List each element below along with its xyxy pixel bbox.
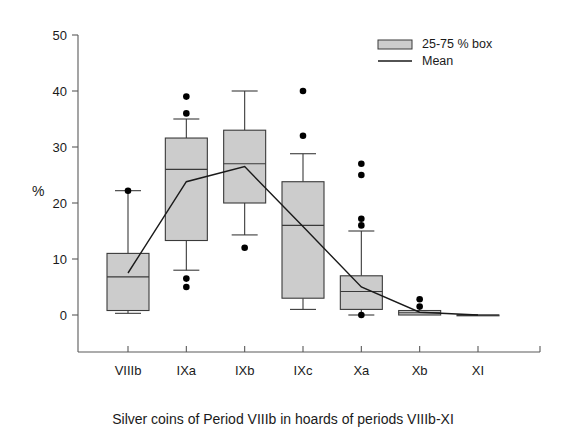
outlier-point [300, 88, 307, 95]
chart-canvas: 01020304050 VIIIbIXaIXbIXcXaXbXI 25-75 %… [0, 0, 567, 440]
box-plot-series [107, 88, 499, 319]
legend-label-box: 25-75 % box [422, 37, 493, 51]
x-tick-label: IXa [177, 363, 197, 378]
box-iqr [107, 253, 149, 310]
outlier-point [183, 93, 190, 100]
outlier-point [183, 110, 190, 117]
outlier-point [183, 275, 190, 282]
legend-label-mean: Mean [422, 54, 453, 68]
x-tick-label: Xb [412, 363, 428, 378]
y-axis-title: % [32, 183, 44, 199]
legend-swatch-box [378, 40, 412, 49]
y-tick-label: 50 [53, 28, 67, 43]
box-plot-xi [457, 315, 499, 316]
x-tick-label: XI [472, 363, 484, 378]
x-tick-label: Xa [353, 363, 370, 378]
outlier-point [125, 187, 132, 194]
outlier-point [358, 312, 365, 319]
outlier-point [300, 133, 307, 140]
chart-caption: Silver coins of Period VIIIb in hoards o… [112, 411, 454, 427]
y-tick-label: 20 [53, 196, 67, 211]
outlier-point [358, 161, 365, 168]
outlier-point [241, 245, 248, 252]
x-tick-label: VIIIb [115, 363, 142, 378]
outlier-point [358, 172, 365, 179]
chart-legend: 25-75 % boxMean [378, 37, 493, 68]
box-iqr [165, 138, 207, 240]
y-tick-label: 10 [53, 252, 67, 267]
boxplot-figure: 01020304050 VIIIbIXaIXbIXcXaXbXI 25-75 %… [0, 0, 567, 440]
outlier-point [183, 284, 190, 291]
outlier-point [358, 215, 365, 222]
y-tick-label: 40 [53, 84, 67, 99]
box-iqr [282, 182, 324, 298]
x-tick-label: IXb [235, 363, 255, 378]
outlier-point [416, 296, 423, 303]
x-tick-label: IXc [294, 363, 313, 378]
y-tick-label: 30 [53, 140, 67, 155]
y-tick-label: 0 [60, 308, 67, 323]
y-axis: 01020304050 [53, 28, 78, 352]
x-axis: VIIIbIXaIXbIXcXaXbXI [78, 346, 540, 378]
box-plot-xa [340, 161, 382, 319]
box-plot-ixc [282, 88, 324, 310]
box-plot-ixa [165, 93, 207, 290]
outlier-point [358, 222, 365, 229]
outlier-point [416, 303, 423, 310]
